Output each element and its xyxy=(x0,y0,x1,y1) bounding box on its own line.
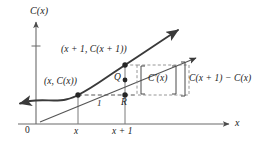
point-r-label: R xyxy=(121,98,127,108)
origin-label: 0 xyxy=(25,126,30,136)
difference-label: C(x + 1) − C(x) xyxy=(189,74,251,84)
cost-curve xyxy=(30,30,178,101)
upper-point-label: (x + 1, C(x + 1)) xyxy=(61,45,127,55)
lower-point-label: (x, C(x)) xyxy=(44,77,77,87)
y-axis xyxy=(32,22,41,124)
x-axis-label: x xyxy=(235,118,240,128)
x-plus-1-tick-label: x + 1 xyxy=(112,127,133,137)
outer-bracket xyxy=(181,62,185,96)
secant-line xyxy=(40,58,196,122)
derivative-label: C′(x) xyxy=(148,74,167,84)
point-q xyxy=(123,78,128,83)
curve-left-arrow xyxy=(20,101,30,104)
x-tick-label: x xyxy=(74,127,78,137)
point-x-cx xyxy=(75,92,80,97)
inner-bracket-right xyxy=(172,66,176,94)
figure-canvas: C(x) x 0 x x + 1 (x + 1, C(x + 1)) (x, C… xyxy=(0,0,261,152)
point-x1-cx1 xyxy=(122,62,127,67)
point-q-label: Q xyxy=(114,73,121,83)
y-axis-label: C(x) xyxy=(30,6,48,16)
run-label: 1 xyxy=(97,99,102,108)
